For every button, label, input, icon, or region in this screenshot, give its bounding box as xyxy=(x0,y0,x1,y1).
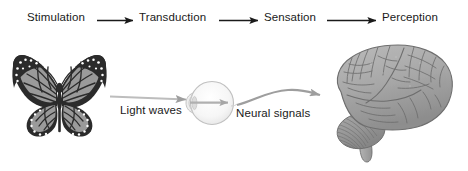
sensation-perception-figure: Stimulation Transduction Sensation Perce… xyxy=(0,0,468,171)
brain-icon xyxy=(335,45,453,162)
neural-signals-arrow-icon xyxy=(237,90,320,105)
stage-label-perception: Perception xyxy=(382,11,438,23)
light-waves-arrow-icon xyxy=(110,97,186,100)
flow-label-neural-signals: Neural signals xyxy=(236,107,310,119)
stage-label-transduction: Transduction xyxy=(139,11,206,23)
illustration-layer xyxy=(0,0,468,171)
stage-label-sensation: Sensation xyxy=(264,11,316,23)
flow-label-light-waves: Light waves xyxy=(120,104,182,116)
butterfly-icon xyxy=(12,55,106,136)
stage-label-stimulation: Stimulation xyxy=(27,11,85,23)
eye-icon xyxy=(186,82,237,125)
